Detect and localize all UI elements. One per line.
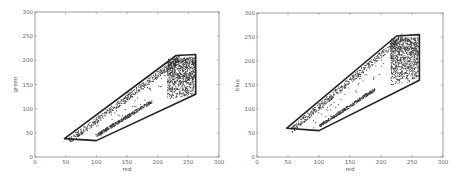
x-axis-label: red <box>122 166 131 172</box>
y-tick-label: 250 <box>23 33 34 39</box>
x-axis-label: red <box>345 166 354 172</box>
x-tick-label: 50 <box>62 159 69 165</box>
y-tick-label: 200 <box>245 58 256 64</box>
x-tick-label: 150 <box>122 159 133 165</box>
x-tick-label: 200 <box>376 159 387 165</box>
y-tick-label: 100 <box>23 106 34 112</box>
x-tick-label: 100 <box>314 159 325 165</box>
x-tick-label: 250 <box>407 159 418 165</box>
scatter-plot-1: 050100150200250300050100150200250300redg… <box>12 9 225 172</box>
x-tick-label: 200 <box>152 159 163 165</box>
y-axis-label: green <box>12 76 19 92</box>
x-tick-label: 100 <box>91 159 102 165</box>
y-tick-label: 0 <box>30 154 34 160</box>
y-tick-label: 300 <box>245 10 256 16</box>
y-tick-label: 300 <box>23 9 34 15</box>
x-tick-label: 50 <box>285 159 292 165</box>
y-tick-label: 150 <box>245 82 256 88</box>
scatter-plot-2: 050100150200250300050100150200250300redb… <box>234 10 449 172</box>
figure: 050100150200250300050100150200250300redg… <box>0 0 462 183</box>
y-tick-label: 50 <box>248 130 255 136</box>
y-tick-label: 150 <box>23 82 34 88</box>
x-tick-label: 0 <box>255 159 259 165</box>
y-tick-label: 0 <box>252 154 256 160</box>
y-tick-label: 200 <box>23 57 34 63</box>
x-tick-label: 300 <box>214 159 225 165</box>
y-tick-label: 100 <box>245 106 256 112</box>
x-tick-label: 300 <box>438 159 449 165</box>
y-axis-label: blue <box>234 78 240 91</box>
y-tick-label: 250 <box>245 34 256 40</box>
y-tick-label: 50 <box>26 130 33 136</box>
x-tick-label: 0 <box>33 159 37 165</box>
x-tick-label: 150 <box>345 159 356 165</box>
x-tick-label: 250 <box>183 159 194 165</box>
